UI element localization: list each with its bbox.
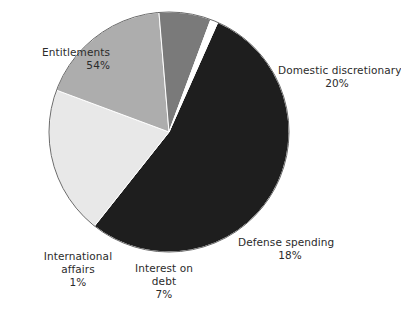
slice-label-entitlements-value: 54% — [6, 59, 110, 72]
slice-label-interest-on-debt-name-line1: Interest on — [120, 262, 208, 275]
slice-label-international-affairs-value: 1% — [30, 276, 126, 289]
slice-label-international-affairs: International affairs 1% — [30, 250, 126, 289]
slice-label-interest-on-debt-value: 7% — [120, 288, 208, 301]
slice-label-defense-spending-value: 18% — [238, 249, 342, 262]
slice-label-interest-on-debt: Interest on debt 7% — [120, 262, 208, 301]
slice-label-international-affairs-name-line2: affairs — [30, 263, 126, 276]
slice-label-international-affairs-name-line1: International — [30, 250, 126, 263]
slice-label-entitlements: Entitlements 54% — [6, 46, 110, 72]
slice-label-domestic-discretionary-name: Domestic discretionary — [278, 64, 398, 77]
slice-label-defense-spending: Defense spending 18% — [238, 236, 360, 262]
slice-label-domestic-discretionary-value: 20% — [278, 77, 396, 90]
slice-label-interest-on-debt-name-line2: debt — [120, 275, 208, 288]
slice-label-domestic-discretionary: Domestic discretionary 20% — [278, 64, 398, 90]
slice-label-defense-spending-name: Defense spending — [238, 236, 360, 249]
slice-label-entitlements-name: Entitlements — [6, 46, 110, 59]
